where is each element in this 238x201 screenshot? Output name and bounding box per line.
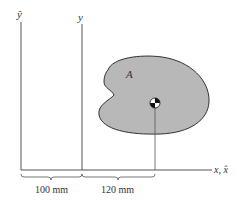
x-axis-label: x, x̂ xyxy=(213,164,228,175)
dimension-label-120: 120 mm xyxy=(101,184,134,195)
dimension-bracket-100 xyxy=(21,174,82,180)
area-shape xyxy=(99,56,209,134)
centroid-icon xyxy=(150,98,160,108)
y-axis-label: y xyxy=(77,11,83,23)
dimension-bracket-120 xyxy=(82,174,155,180)
dimension-label-100: 100 mm xyxy=(35,184,68,195)
y-hat-axis-label: ŷ xyxy=(16,8,22,20)
diagram-canvas: ŷ y x, x̂ A 100 mm 120 mm xyxy=(0,0,238,201)
area-label: A xyxy=(125,68,133,80)
